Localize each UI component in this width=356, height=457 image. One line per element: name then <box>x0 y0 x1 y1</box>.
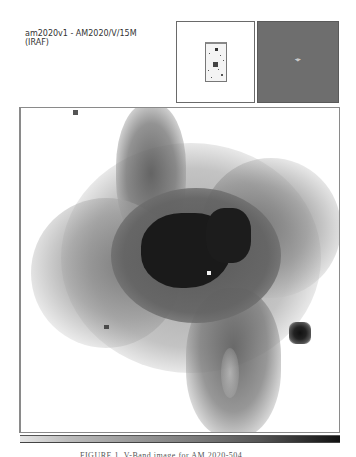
thumb-star <box>209 53 210 54</box>
field-star <box>289 322 311 344</box>
image-title: am2020v1 - AM2020/V/15M (IRAF) <box>25 29 137 47</box>
image-title-line2: (IRAF) <box>25 38 137 47</box>
thumb-galaxy <box>213 62 218 67</box>
crosshair-cursor-icon: ⌖ <box>293 55 303 65</box>
thumb-star <box>208 70 209 71</box>
thumb-star <box>215 48 218 51</box>
thumb-star <box>223 60 224 61</box>
image-title-line1: am2020v1 - AM2020/V/15M <box>25 29 137 38</box>
field-pixel <box>104 325 109 329</box>
field-pixel <box>73 110 78 115</box>
galaxy-image[interactable] <box>21 108 339 432</box>
main-image-frame[interactable] <box>19 107 340 433</box>
thumb-star <box>221 74 223 76</box>
panner-window[interactable] <box>176 21 255 103</box>
thumb-star <box>220 55 221 56</box>
colorbar[interactable] <box>20 435 340 443</box>
magnifier-window: ⌖ <box>257 21 339 103</box>
thumb-star <box>211 77 212 78</box>
bright-pixel <box>207 271 211 275</box>
figure-caption: FIGURE 1. V-Band image for AM 2020-504 <box>80 449 300 457</box>
panner-thumbnail[interactable] <box>205 42 227 82</box>
thumb-star <box>218 69 219 70</box>
saoimage-display-window: am2020v1 - AM2020/V/15M (IRAF) ⌖ <box>0 0 356 457</box>
lower-arm-highlight <box>221 348 239 398</box>
galaxy-core-lobe <box>206 208 251 263</box>
